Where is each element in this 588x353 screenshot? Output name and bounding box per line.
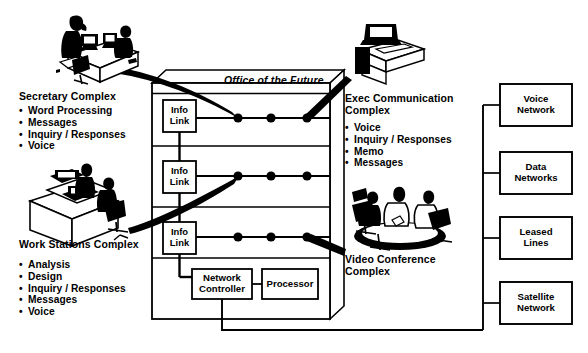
secretary-complex-list: •Word Processing •Messages •Inquiry / Re… bbox=[19, 105, 126, 152]
list-item: •Messages bbox=[19, 294, 126, 306]
bullet-icon: • bbox=[19, 129, 28, 141]
bullet-icon: • bbox=[19, 140, 28, 152]
processor-label: Processor bbox=[262, 269, 318, 299]
data-networks-label-line2: Networks bbox=[514, 173, 557, 184]
office-of-the-future-banner: Office of the Future bbox=[224, 75, 324, 86]
info-link-label-1: Info Link bbox=[163, 105, 196, 127]
bullet-icon: • bbox=[19, 283, 28, 295]
bus-node-3-1[interactable] bbox=[233, 232, 242, 241]
bullet-icon: • bbox=[345, 157, 354, 169]
office-box-3d-side bbox=[330, 70, 344, 319]
satellite-network-label: Satellite Network bbox=[500, 282, 572, 324]
bus-node-2-2[interactable] bbox=[266, 171, 275, 180]
list-item: •Word Processing bbox=[19, 105, 126, 117]
exec-communication-illustration bbox=[355, 24, 424, 84]
satellite-network-label-line2: Network bbox=[517, 303, 555, 314]
bullet-icon: • bbox=[19, 105, 28, 117]
bullet-icon: • bbox=[19, 259, 28, 271]
exec-communication-complex-heading: Exec Communication Complex bbox=[345, 92, 454, 116]
bullet-icon: • bbox=[19, 271, 28, 283]
list-item: •Analysis bbox=[19, 259, 126, 271]
info-link-label-1-line1: Info bbox=[171, 104, 188, 115]
exec-communication-complex-list: •Voice •Inquiry / Responses •Memo •Messa… bbox=[345, 122, 452, 169]
bullet-icon: • bbox=[345, 146, 354, 158]
bus-node-3-2[interactable] bbox=[266, 232, 275, 241]
network-controller-label: Network Controller bbox=[192, 269, 252, 299]
list-item: •Messages bbox=[345, 157, 452, 169]
work-stations-complex-list: •Analysis •Design •Inquiry / Responses •… bbox=[19, 259, 126, 318]
info-link-label-3-line2: Link bbox=[170, 237, 189, 248]
voice-network-label: Voice Network bbox=[500, 84, 572, 126]
bullet-icon: • bbox=[19, 117, 28, 129]
list-item: •Design bbox=[19, 271, 126, 283]
secretary-complex-heading: Secretary Complex bbox=[19, 90, 116, 102]
voice-network-label-line2: Network bbox=[517, 105, 555, 116]
video-conference-complex-heading: Video Conference Complex bbox=[345, 253, 436, 277]
work-stations-complex-heading: Work Stations Complex bbox=[19, 238, 139, 250]
info-link-label-3-line1: Info bbox=[171, 226, 188, 237]
list-item: •Memo bbox=[345, 146, 452, 158]
bullet-icon: • bbox=[19, 294, 28, 306]
bus-node-2-3[interactable] bbox=[302, 171, 311, 180]
list-item: •Messages bbox=[19, 117, 126, 129]
bus-node-1-2[interactable] bbox=[266, 113, 275, 122]
info-link-label-2: Info Link bbox=[163, 166, 196, 188]
data-networks-label: Data Networks bbox=[500, 152, 572, 194]
work-stations-complex-illustration bbox=[30, 164, 128, 246]
list-item: •Voice bbox=[19, 140, 126, 152]
info-link-label-3: Info Link bbox=[163, 227, 196, 249]
list-item: •Inquiry / Responses bbox=[19, 283, 126, 295]
info-link-label-1-line2: Link bbox=[170, 115, 189, 126]
processor-label-line1: Processor bbox=[267, 279, 314, 290]
bullet-icon: • bbox=[345, 134, 354, 146]
list-item: •Inquiry / Responses bbox=[345, 134, 452, 146]
network-controller-label-line2: Controller bbox=[199, 284, 245, 295]
bullet-icon: • bbox=[345, 122, 354, 134]
list-item: •Voice bbox=[345, 122, 452, 134]
leased-lines-label-line2: Lines bbox=[519, 238, 552, 249]
exec-communication-heading-line2: Complex bbox=[345, 104, 454, 116]
video-conference-heading-line2: Complex bbox=[345, 265, 436, 277]
video-conference-heading-line1: Video Conference bbox=[345, 253, 436, 265]
bullet-icon: • bbox=[19, 306, 28, 318]
list-item: •Inquiry / Responses bbox=[19, 129, 126, 141]
leased-lines-label: Leased Lines bbox=[500, 217, 572, 259]
video-conference-illustration bbox=[352, 187, 452, 250]
info-link-label-2-line1: Info bbox=[171, 165, 188, 176]
list-item: •Voice bbox=[19, 306, 126, 318]
exec-communication-heading-line1: Exec Communication bbox=[345, 92, 454, 104]
info-link-label-2-line2: Link bbox=[170, 176, 189, 187]
diagram-canvas: Office of the Future Info Link Info Link… bbox=[0, 0, 588, 353]
